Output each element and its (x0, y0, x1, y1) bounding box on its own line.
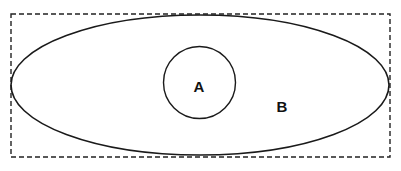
venn-diagram: A B (0, 0, 401, 171)
set-a-label: A (194, 78, 205, 95)
set-b-label: B (277, 98, 288, 115)
diagram-canvas: A B (0, 0, 401, 171)
